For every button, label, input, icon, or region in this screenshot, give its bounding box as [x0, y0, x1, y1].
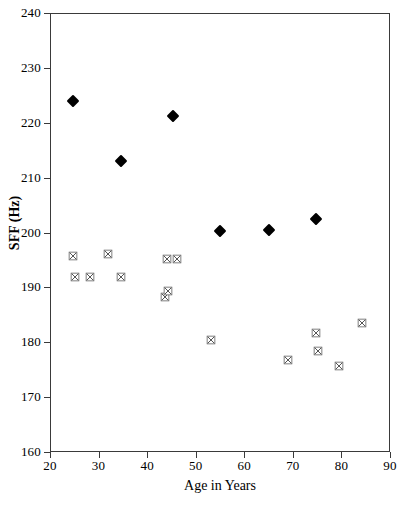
x-tick-label: 60	[238, 458, 251, 474]
x-tick-mark	[341, 452, 342, 458]
x-tick-label: 50	[189, 458, 202, 474]
y-tick-label: 160	[21, 444, 41, 460]
y-tick-label: 180	[21, 334, 41, 350]
y-tick-mark	[44, 342, 50, 343]
x-tick-label: 20	[43, 458, 56, 474]
plot-area-frame	[50, 13, 390, 452]
x-tick-label: 80	[335, 458, 348, 474]
x-tick-mark	[293, 452, 294, 458]
scatter-chart: 160170180190200210220230240 203040506070…	[0, 0, 407, 514]
y-tick-label: 170	[21, 389, 41, 405]
y-axis-title: SFF (Hz)	[7, 183, 23, 263]
x-tick-label: 40	[140, 458, 153, 474]
x-tick-label: 30	[92, 458, 105, 474]
x-tick-mark	[390, 452, 391, 458]
x-tick-mark	[244, 452, 245, 458]
y-tick-mark	[44, 178, 50, 179]
y-tick-label: 230	[21, 60, 41, 76]
y-tick-label: 190	[21, 279, 41, 295]
y-tick-label: 240	[21, 5, 41, 21]
x-tick-mark	[196, 452, 197, 458]
y-tick-mark	[44, 233, 50, 234]
y-tick-label: 220	[21, 115, 41, 131]
x-tick-mark	[50, 452, 51, 458]
x-axis-title: Age in Years	[50, 478, 390, 494]
x-tick-mark	[99, 452, 100, 458]
y-tick-label: 200	[21, 225, 41, 241]
x-tick-mark	[147, 452, 148, 458]
y-tick-mark	[44, 68, 50, 69]
y-tick-mark	[44, 397, 50, 398]
y-tick-mark	[44, 13, 50, 14]
y-tick-mark	[44, 123, 50, 124]
y-tick-label: 210	[21, 170, 41, 186]
x-tick-label: 90	[383, 458, 396, 474]
y-tick-mark	[44, 287, 50, 288]
x-tick-label: 70	[286, 458, 299, 474]
